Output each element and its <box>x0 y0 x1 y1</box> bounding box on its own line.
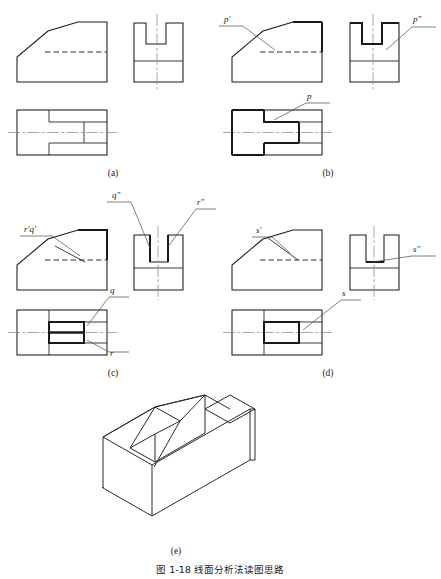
label-p-top: p <box>306 91 312 101</box>
panel-a: (a) <box>8 14 183 179</box>
panel-c: r′q′ q″ r″ q <box>8 190 216 379</box>
label-r-side: r″ <box>197 197 205 207</box>
label-p-side: p″ <box>412 14 422 24</box>
panel-b-leader-p-side: p″ <box>386 14 436 50</box>
panel-a-side-view <box>134 14 183 92</box>
panel-d-leader-s-side: s″ <box>372 244 436 262</box>
label-r-top: r <box>110 348 114 358</box>
panel-c-side-view <box>134 226 183 300</box>
panel-c-leader-r-side: r″ <box>167 197 216 248</box>
panel-d-leader-s-top: s <box>303 288 361 330</box>
label-p-front: p′ <box>223 14 232 24</box>
panel-c-r-top-edges <box>49 333 84 344</box>
panel-c-rq-aux <box>55 246 85 262</box>
panel-label-d: (d) <box>322 368 333 379</box>
panel-a-top-view <box>8 110 117 155</box>
panel-c-front-view <box>17 230 107 290</box>
panel-a-front-view <box>17 22 107 82</box>
label-rq-front: r′q′ <box>24 224 37 234</box>
panel-d-top-view <box>223 310 332 355</box>
panel-b-side-view <box>350 14 399 92</box>
panel-d-front-view <box>232 230 322 290</box>
panel-b: p′ p″ p (b) <box>219 14 436 179</box>
panel-b-top-view <box>223 110 332 155</box>
panel-c-leader-q-top: q <box>87 285 129 326</box>
panel-label-b: (b) <box>322 168 333 179</box>
panel-b-p-side-edges <box>350 23 399 44</box>
panel-c-q-top-edges <box>49 322 84 333</box>
panel-c-rq-front-edge <box>78 230 107 260</box>
panel-d-side-view <box>350 226 399 300</box>
panel-b-front-view <box>232 22 322 82</box>
label-q-side: q″ <box>112 190 121 200</box>
panel-c-leader-q-side: q″ <box>107 190 150 248</box>
label-s-front: s′ <box>256 225 263 235</box>
panel-c-leader-rq-front: r′q′ <box>20 224 80 256</box>
figure-caption: 图 1-18 线面分析法读图思路 <box>156 564 284 575</box>
label-s-top: s <box>342 288 346 298</box>
engineering-drawing-figure: (a) p′ p″ <box>0 0 441 579</box>
panel-d-leader-s-front: s′ <box>252 225 290 253</box>
panel-c-top-view <box>8 310 117 355</box>
panel-d-s-aux <box>268 238 298 260</box>
label-s-side: s″ <box>413 244 421 254</box>
label-q-top: q <box>110 285 115 295</box>
panel-label-e: (e) <box>171 546 182 557</box>
panel-d: s′ s″ s (d) <box>223 225 436 379</box>
panel-e-isometric-view <box>103 395 255 516</box>
panel-label-c: (c) <box>108 368 119 379</box>
panel-label-a: (a) <box>108 168 119 179</box>
